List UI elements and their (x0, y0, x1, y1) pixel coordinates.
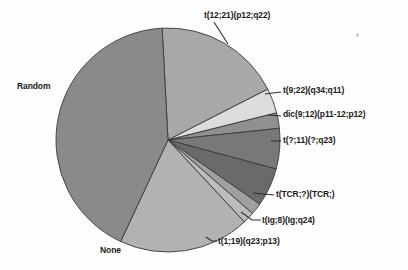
pie-label-t1221: t(12;21)(p12;q22) (204, 11, 270, 20)
pie-label-tcr: t(TCR;?)(TCR;) (276, 190, 335, 199)
pie-chart-canvas (0, 0, 408, 270)
pie-label-t11: t(?;11)(?;q23) (283, 136, 335, 145)
pie-slice-group (56, 28, 280, 252)
pie-label-none: None (100, 246, 121, 255)
pie-label-ig8: t(Ig;8)(Ig;q24) (262, 216, 315, 225)
pie-label-t922: t(9;22)(q34;q11) (283, 86, 344, 95)
pie-label-random: Random (17, 82, 50, 91)
pie-chart-figure: t(12;21)(p12;q22) t(9;22)(q34;q11) dic(9… (0, 0, 408, 270)
pie-label-dic912: dic(9;12)(p11-12;p12) (283, 110, 365, 119)
scan-artifact-speck (356, 33, 359, 37)
pie-label-t119: t(1;19)(q23;p13) (218, 237, 280, 246)
